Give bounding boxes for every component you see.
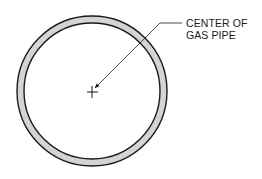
center-of-gas-pipe-label: CENTER OF GAS PIPE	[186, 17, 248, 41]
label-line-2: GAS PIPE	[186, 29, 248, 41]
gas-pipe-diagram: CENTER OF GAS PIPE	[0, 0, 262, 179]
center-crosshair-icon	[87, 86, 98, 98]
label-line-1: CENTER OF	[186, 17, 248, 29]
